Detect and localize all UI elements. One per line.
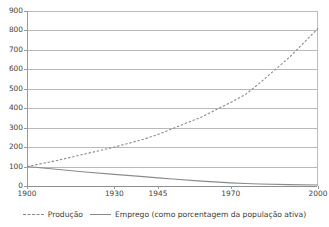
series-layer (27, 11, 318, 186)
legend-swatch-dashed-icon (23, 214, 44, 215)
y-axis-tick-label: 100 (0, 163, 23, 170)
line-chart: 9008007006005004003002001000 19001930194… (0, 0, 329, 227)
legend-item-emprego[interactable]: Emprego (como porcentagem da população a… (90, 210, 306, 219)
y-axis-tick-label: 600 (0, 65, 23, 72)
legend-item-producao[interactable]: Produção (23, 210, 83, 219)
legend-label: Produção (48, 210, 83, 219)
y-axis-tick-label: 900 (0, 7, 23, 14)
series-line-emprego (27, 167, 318, 185)
y-axis-tick-label: 800 (0, 26, 23, 33)
legend-label: Emprego (como porcentagem da população a… (115, 210, 306, 219)
chart-title (0, 0, 329, 2)
x-axis-tick-label: 2000 (298, 190, 329, 197)
x-axis-tick-label: 1970 (211, 190, 251, 197)
x-axis-tick-label: 1930 (94, 190, 134, 197)
y-axis-tick-label: 700 (0, 46, 23, 53)
y-axis-tick-label: 400 (0, 104, 23, 111)
series-line-producao (27, 29, 318, 167)
y-axis-tick-label: 500 (0, 85, 23, 92)
gridline (28, 186, 317, 187)
y-axis-tick-label: 200 (0, 143, 23, 150)
x-axis-tick-label: 1900 (7, 190, 47, 197)
x-axis-tick-label: 1945 (138, 190, 178, 197)
y-axis-tick-label: 300 (0, 124, 23, 131)
chart-legend: ProduçãoEmprego (como porcentagem da pop… (0, 210, 329, 219)
legend-swatch-solid-icon (90, 214, 111, 215)
